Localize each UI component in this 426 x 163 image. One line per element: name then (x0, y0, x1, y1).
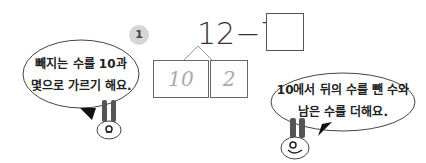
bubble-left-line2: 몇으로 가르기 해요. (20, 75, 142, 97)
answer-box[interactable] (266, 13, 304, 51)
rabbit-left-icon (94, 98, 124, 144)
split-box-ten[interactable]: 10 (153, 60, 209, 98)
bubble-right-line1: 10에서 뒤의 수를 뺀 수와 (268, 79, 418, 101)
bubble-tail-right (318, 122, 336, 138)
bubble-left-line1: 빼지는 수를 10과 (20, 53, 142, 75)
rabbit-right-icon (278, 116, 314, 162)
split-box-remainder[interactable]: 2 (210, 60, 248, 98)
